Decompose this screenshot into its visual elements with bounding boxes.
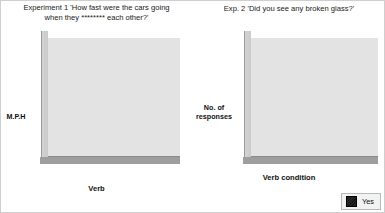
legend-experiment-2: Yes xyxy=(341,193,381,210)
legend-label-yes: Yes xyxy=(362,198,374,206)
x-axis-title-experiment-2: Verb condition xyxy=(193,173,385,182)
plot-area-experiment-1 xyxy=(47,38,180,157)
chart-title-line-2: when they ******** each other?' xyxy=(0,13,193,23)
y-axis-ticks-experiment-2 xyxy=(227,38,243,157)
plot-depth-wall xyxy=(41,31,48,157)
y-axis-ticks-experiment-1 xyxy=(24,38,40,157)
legend-swatch-yes xyxy=(346,196,357,207)
chart-panel-experiment-2: Exp. 2 'Did you see any broken glass?' N… xyxy=(193,0,385,213)
chart-title-experiment-2: Exp. 2 'Did you see any broken glass?' xyxy=(193,0,385,14)
chart-title-line-1: Experiment 1 'How fast were the cars goi… xyxy=(0,3,193,13)
chart-title-experiment-1: Experiment 1 'How fast were the cars goi… xyxy=(0,0,193,23)
plot-depth-wall xyxy=(244,31,251,157)
x-axis-title-experiment-1: Verb xyxy=(0,184,193,193)
chart-title-line-1: Exp. 2 'Did you see any broken glass?' xyxy=(193,4,385,14)
x-axis-labels-experiment-2 xyxy=(250,160,378,172)
chart-panel-experiment-1: Experiment 1 'How fast were the cars goi… xyxy=(0,0,193,213)
x-axis-labels-experiment-1 xyxy=(47,160,180,182)
plot-area-experiment-2 xyxy=(250,38,378,157)
